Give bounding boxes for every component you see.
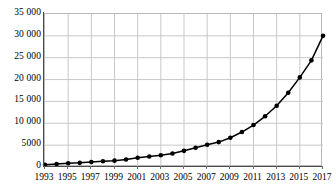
x-axis-tick-mark [229, 166, 230, 169]
data-point-marker [112, 158, 117, 163]
data-point-marker [182, 149, 187, 154]
x-axis-tick-mark [114, 166, 115, 169]
x-axis-tick-mark [206, 166, 207, 169]
y-axis-tick-label: 20 000 [0, 74, 41, 84]
data-point-marker [193, 145, 198, 150]
data-point-marker [205, 142, 210, 147]
data-point-marker [228, 135, 233, 140]
data-point-marker [89, 160, 94, 165]
x-axis-tick-mark [299, 166, 300, 169]
data-point-marker [101, 159, 106, 164]
y-axis-tick-label: 25 000 [0, 52, 41, 62]
y-axis-tick-label: 30 000 [0, 30, 41, 40]
x-axis-tick-mark [67, 166, 68, 169]
data-point-marker [298, 75, 303, 80]
data-point-marker [135, 156, 140, 161]
data-point-marker [77, 161, 82, 166]
y-axis-tick-label: 0 [0, 161, 41, 171]
data-point-marker [170, 151, 175, 156]
plot-area [44, 13, 322, 166]
data-point-marker [124, 157, 129, 162]
data-series-line [45, 14, 323, 167]
data-point-marker [159, 153, 164, 158]
data-point-marker [309, 58, 314, 63]
y-axis-tick-label: 5000 [0, 139, 41, 149]
data-point-marker [240, 130, 245, 135]
y-axis-tick-label: 10 000 [0, 117, 41, 127]
data-point-marker [147, 154, 152, 159]
x-axis-tick-mark [44, 166, 45, 169]
data-point-marker [274, 104, 279, 109]
x-axis-tick-mark [183, 166, 184, 169]
x-axis-tick-mark [90, 166, 91, 169]
x-axis-tick-mark [276, 166, 277, 169]
x-axis-tick-label: 2017 [302, 172, 336, 182]
x-axis-tick-mark [160, 166, 161, 169]
data-point-marker [66, 161, 71, 166]
data-point-marker [286, 90, 291, 95]
x-axis-tick-mark [322, 166, 323, 169]
y-axis-tick-label: 35 000 [0, 8, 41, 18]
y-axis [43, 12, 44, 167]
data-point-marker [251, 123, 256, 128]
y-axis-tick-label: 15 000 [0, 95, 41, 105]
data-point-marker [321, 34, 326, 39]
x-axis-tick-mark [253, 166, 254, 169]
x-axis-tick-mark [137, 166, 138, 169]
data-point-marker [263, 114, 268, 119]
data-point-marker [216, 140, 221, 145]
series-polyline [45, 36, 323, 165]
